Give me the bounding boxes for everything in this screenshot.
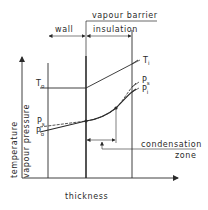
x-axis-label: thickness	[65, 192, 108, 201]
zone-label: zone	[175, 151, 197, 160]
wall-label: wall	[55, 25, 73, 34]
condensation-diagram: vapour barrier wall insulation To Ti Ps …	[0, 0, 208, 210]
y-axis-label-temperature: temperature	[10, 121, 19, 178]
t-o-label: To	[35, 79, 45, 89]
barrier-intersection-dot	[85, 120, 88, 123]
p-s-right-leader	[132, 82, 139, 87]
condensation-label: condensation	[141, 140, 202, 149]
t-i-leader	[132, 60, 140, 64]
insulation-label: insulation	[93, 25, 138, 34]
t-i-label: Ti	[142, 56, 150, 66]
p-i-leader	[132, 88, 139, 92]
vapour-barrier-label: vapour barrier	[92, 11, 158, 20]
temperature-curve	[40, 60, 138, 88]
p-i-label: Pi	[142, 85, 149, 95]
vapour-pressure-curve	[40, 89, 136, 132]
p-o-label: Po	[36, 127, 45, 137]
y-axis-label-vapour-pressure: vapour pressure	[22, 104, 31, 178]
p-s-left-label: Ps	[37, 117, 45, 127]
